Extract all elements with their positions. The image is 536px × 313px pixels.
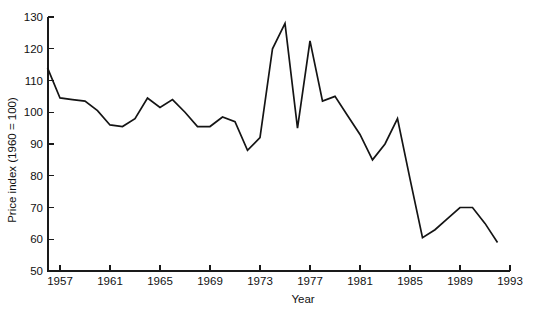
x-tick-label: 1973: [247, 275, 273, 287]
y-tick-label: 80: [30, 170, 43, 182]
x-tick-label: 1993: [497, 275, 523, 287]
x-axis-ticks: [60, 265, 510, 271]
axis-lines: [48, 17, 510, 271]
x-tick-label: 1989: [447, 275, 473, 287]
price-index-line: [48, 23, 498, 242]
x-tick-label: 1965: [147, 275, 173, 287]
x-tick-label: 1957: [47, 275, 73, 287]
x-tick-label: 1969: [197, 275, 223, 287]
y-tick-label: 100: [24, 106, 43, 118]
y-axis-tick-labels: 5060708090100110120130: [24, 11, 43, 277]
data-group: [48, 23, 498, 242]
y-tick-label: 120: [24, 43, 43, 55]
y-tick-label: 110: [25, 75, 43, 87]
x-tick-label: 1981: [347, 275, 373, 287]
x-tick-label: 1961: [97, 275, 123, 287]
y-axis-title: Price index (1960 = 100): [6, 97, 18, 223]
y-tick-label: 130: [24, 11, 43, 23]
line-chart: 5060708090100110120130 19571961196519691…: [0, 0, 536, 313]
y-axis-ticks: [48, 17, 54, 271]
x-tick-label: 1977: [297, 275, 323, 287]
chart-figure: 5060708090100110120130 19571961196519691…: [0, 0, 536, 313]
x-tick-label: 1985: [397, 275, 423, 287]
y-tick-label: 50: [30, 265, 43, 277]
y-tick-label: 90: [30, 138, 43, 150]
x-axis-title: Year: [291, 293, 314, 305]
y-tick-label: 70: [30, 202, 43, 214]
y-tick-label: 60: [30, 233, 43, 245]
axes-group: 5060708090100110120130 19571961196519691…: [24, 11, 523, 287]
x-axis-tick-labels: 1957196119651969197319771981198519891993: [47, 275, 523, 287]
